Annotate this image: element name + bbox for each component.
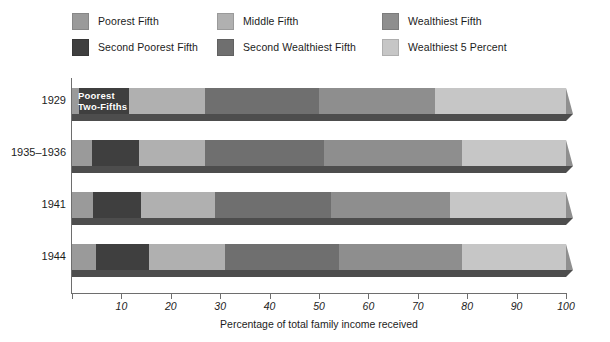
legend-item-wealthiest-5-percent: Wealthiest 5 Percent: [382, 39, 572, 56]
x-tick-20: [171, 293, 172, 299]
bar-side-face: [566, 140, 573, 166]
bar-segment-second-poorest-fifth: [92, 140, 138, 166]
bar-stack: [72, 244, 566, 270]
x-tick-50: [319, 293, 320, 299]
bar-stack: [72, 140, 566, 166]
x-tick-label-50: 50: [313, 300, 325, 312]
x-tick-30: [220, 293, 221, 299]
x-tick-label-40: 40: [264, 300, 276, 312]
y-axis-category-label: 1941: [2, 198, 66, 210]
bar-segment-middle-fifth: [149, 244, 226, 270]
bar-segment-wealthiest-5-percent: [462, 140, 566, 166]
income-distribution-chart: Poorest Fifth Middle Fifth Wealthiest Fi…: [0, 0, 610, 342]
legend-item-poorest-fifth: Poorest Fifth: [72, 13, 217, 30]
x-axis-title: Percentage of total family income receiv…: [72, 318, 566, 330]
legend-item-wealthiest-fifth: Wealthiest Fifth: [382, 13, 572, 30]
bar-segment-wealthiest-fifth: [339, 244, 463, 270]
bar-segment-wealthiest-5-percent: [450, 192, 566, 218]
legend-label-second-poorest-fifth: Second Poorest Fifth: [98, 41, 198, 53]
legend-item-middle-fifth: Middle Fifth: [217, 13, 382, 30]
legend-swatch-poorest-fifth: [72, 13, 89, 30]
bar-segment-second-poorest-fifth: [96, 244, 148, 270]
bar-row: 1935–1936: [72, 140, 566, 166]
x-tick-label-60: 60: [363, 300, 375, 312]
legend-label-wealthiest-5-percent: Wealthiest 5 Percent: [408, 41, 507, 53]
bar-segment-second-wealthiest-fifth: [225, 244, 339, 270]
legend-item-second-poorest-fifth: Second Poorest Fifth: [72, 39, 217, 56]
bar-segment-wealthiest-fifth: [324, 140, 462, 166]
bar-segment-poorest-fifth: [72, 244, 96, 270]
x-tick-label-80: 80: [461, 300, 473, 312]
x-tick-90: [517, 293, 518, 299]
legend-item-second-wealthiest-fifth: Second Wealthiest Fifth: [217, 39, 382, 56]
bar-segment-middle-fifth: [129, 88, 205, 114]
bar-stack: [72, 88, 566, 114]
x-tick-10: [121, 293, 122, 299]
legend-swatch-wealthiest-5-percent: [382, 39, 399, 56]
bar-segment-second-poorest-fifth: [93, 192, 141, 218]
bar-stack: [72, 192, 566, 218]
legend-label-second-wealthiest-fifth: Second Wealthiest Fifth: [243, 41, 356, 53]
bar-row: 1929PoorestTwo-Fifths: [72, 88, 566, 114]
bar-segment-wealthiest-5-percent: [462, 244, 566, 270]
bar-segment-second-wealthiest-fifth: [205, 140, 324, 166]
bar-shadow: [72, 166, 566, 173]
bar-segment-poorest-fifth: [72, 88, 79, 114]
x-tick-label-10: 10: [116, 300, 128, 312]
y-axis-category-label: 1935–1936: [2, 146, 66, 158]
bar-shadow: [72, 218, 566, 225]
bar-segment-middle-fifth: [141, 192, 215, 218]
y-axis-category-label: 1944: [2, 250, 66, 262]
legend-label-middle-fifth: Middle Fifth: [243, 15, 298, 27]
x-tick-label-30: 30: [214, 300, 226, 312]
legend-label-poorest-fifth: Poorest Fifth: [98, 15, 159, 27]
bar-segment-wealthiest-fifth: [319, 88, 435, 114]
bar-segment-second-poorest-fifth: [79, 88, 129, 114]
x-tick-40: [270, 293, 271, 299]
legend-label-wealthiest-fifth: Wealthiest Fifth: [408, 15, 482, 27]
bar-segment-poorest-fifth: [72, 140, 92, 166]
bar-side-face: [566, 244, 573, 270]
bar-side-face: [566, 88, 573, 114]
legend-swatch-wealthiest-fifth: [382, 13, 399, 30]
bar-segment-poorest-fifth: [72, 192, 93, 218]
bar-shadow: [72, 270, 566, 277]
x-tick-70: [418, 293, 419, 299]
bar-segment-wealthiest-5-percent: [435, 88, 566, 114]
bar-row: 1944: [72, 244, 566, 270]
x-tick-100: [566, 293, 567, 299]
x-tick-label-70: 70: [412, 300, 424, 312]
bar-segment-second-wealthiest-fifth: [215, 192, 331, 218]
x-tick-label-90: 90: [511, 300, 523, 312]
x-tick-label-20: 20: [165, 300, 177, 312]
bar-row: 1941: [72, 192, 566, 218]
bar-segment-second-wealthiest-fifth: [205, 88, 319, 114]
y-axis-category-label: 1929: [2, 94, 66, 106]
legend-swatch-second-wealthiest-fifth: [217, 39, 234, 56]
bar-side-face: [566, 192, 573, 218]
bar-segment-middle-fifth: [139, 140, 206, 166]
bar-shadow: [72, 114, 566, 121]
chart-legend: Poorest Fifth Middle Fifth Wealthiest Fi…: [72, 8, 572, 66]
bar-segment-wealthiest-fifth: [331, 192, 450, 218]
x-tick-80: [467, 293, 468, 299]
x-tick-label-100: 100: [557, 300, 575, 312]
x-tick-0: [72, 293, 73, 299]
x-tick-60: [368, 293, 369, 299]
plot-area: 102030405060708090100 1929PoorestTwo-Fif…: [72, 78, 566, 293]
legend-swatch-second-poorest-fifth: [72, 39, 89, 56]
legend-swatch-middle-fifth: [217, 13, 234, 30]
